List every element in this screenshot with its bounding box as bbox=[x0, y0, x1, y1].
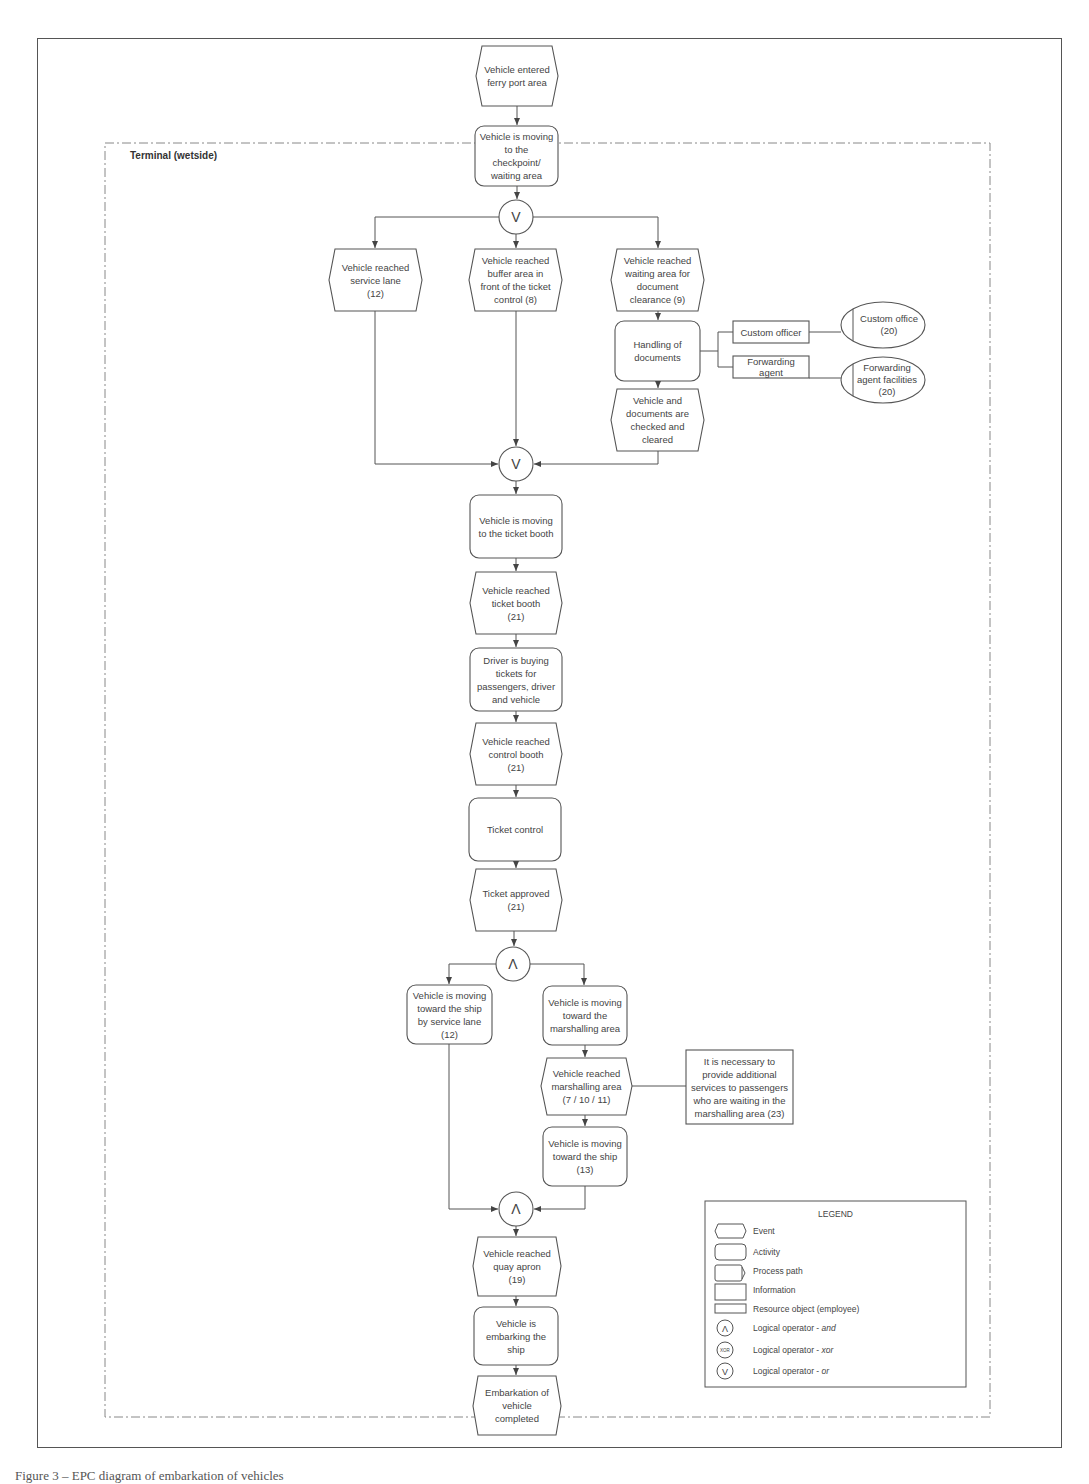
activity-buying-tickets-label: Driver is buying tickets for passengers,… bbox=[470, 648, 562, 711]
activity-toward-ship-label: Vehicle is moving toward the ship (13) bbox=[543, 1127, 627, 1186]
or-split-glyph: V bbox=[511, 209, 521, 225]
legend-box bbox=[705, 1201, 966, 1387]
activity-embarking-label: Vehicle is embarking the ship bbox=[474, 1307, 558, 1365]
activity-ticket-control-label: Ticket control bbox=[469, 798, 561, 861]
event-marshalling-label: Vehicle reached marshalling area (7 / 10… bbox=[541, 1058, 632, 1115]
event-entered-label: Vehicle entered ferry port area bbox=[476, 46, 558, 106]
activity-ship-service-lane-label: Vehicle is moving toward the ship by ser… bbox=[407, 985, 492, 1044]
information-box-label: It is necessary to provide additional se… bbox=[686, 1050, 793, 1124]
legend-activity: Activity bbox=[753, 1247, 780, 1257]
legend-information: Information bbox=[753, 1285, 796, 1295]
legend-and-glyph: Λ bbox=[722, 1324, 728, 1334]
terminal-container-label: Terminal (wetside) bbox=[130, 150, 217, 161]
or-join-glyph: V bbox=[511, 456, 521, 472]
legend-xor: Logical operator - xor bbox=[753, 1345, 833, 1355]
event-buffer-area-label: Vehicle reached buffer area in front of … bbox=[469, 249, 562, 311]
event-waiting-doc-label: Vehicle reached waiting area for documen… bbox=[611, 249, 704, 311]
activity-moving-checkpoint-label: Vehicle is moving to the checkpoint/ wai… bbox=[475, 126, 558, 186]
org-forwarding-facilities-label: Forwarding agent facilities (20) bbox=[845, 357, 929, 403]
and-join-glyph: Λ bbox=[511, 1201, 521, 1217]
legend-or: Logical operator - or bbox=[753, 1366, 829, 1376]
legend-process-path: Process path bbox=[753, 1266, 803, 1276]
event-checked-cleared-label: Vehicle and documents are checked and cl… bbox=[611, 389, 704, 451]
activity-handling-docs-label: Handling of documents bbox=[615, 321, 700, 381]
event-completed-label: Embarkation of vehicle completed bbox=[473, 1376, 561, 1435]
legend-resource-object: Resource object (employee) bbox=[753, 1304, 859, 1314]
event-quay-apron-label: Vehicle reached quay apron (19) bbox=[473, 1237, 561, 1296]
and-split-glyph: Λ bbox=[508, 956, 518, 972]
event-ticket-booth-label: Vehicle reached ticket booth (21) bbox=[470, 572, 562, 634]
org-custom-office-label: Custom office (20) bbox=[850, 302, 928, 348]
event-control-booth-label: Vehicle reached control booth (21) bbox=[470, 723, 562, 785]
event-service-lane-label: Vehicle reached service lane (12) bbox=[329, 249, 422, 311]
resource-forwarding-agent-label: Forwarding agent bbox=[733, 356, 809, 378]
legend-or-glyph: V bbox=[722, 1367, 728, 1377]
figure-caption: Figure 3 – EPC diagram of embarkation of… bbox=[15, 1468, 284, 1484]
legend-xor-glyph: XOR bbox=[720, 1348, 731, 1353]
activity-moving-ticket-booth-label: Vehicle is moving to the ticket booth bbox=[470, 495, 562, 558]
event-ticket-approved-label: Ticket approved (21) bbox=[470, 869, 562, 931]
legend-event: Event bbox=[753, 1226, 775, 1236]
activity-toward-marshalling-label: Vehicle is moving toward the marshalling… bbox=[543, 986, 627, 1045]
resource-custom-officer-label: Custom officer bbox=[733, 321, 809, 343]
legend-title: LEGEND bbox=[818, 1209, 853, 1219]
legend-and: Logical operator - and bbox=[753, 1323, 836, 1333]
